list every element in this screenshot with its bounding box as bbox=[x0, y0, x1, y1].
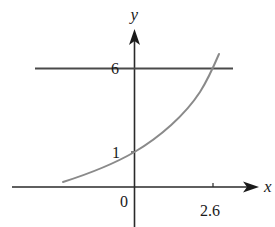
origin-label: 0 bbox=[120, 193, 128, 210]
x-label-2-6: 2.6 bbox=[200, 202, 220, 219]
graph-figure: y x 6 1 0 2.6 bbox=[0, 0, 275, 227]
exponential-curve bbox=[63, 54, 219, 182]
y-label-one: 1 bbox=[112, 144, 120, 161]
y-axis-label: y bbox=[129, 5, 139, 24]
y-label-six: 6 bbox=[111, 60, 119, 77]
x-axis-label: x bbox=[263, 177, 272, 196]
